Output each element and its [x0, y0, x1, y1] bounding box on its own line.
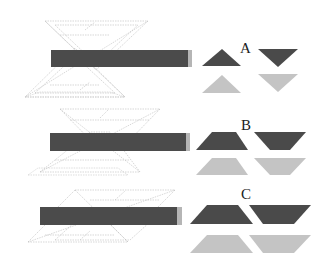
parallelogram-light-right [249, 235, 311, 253]
parallelogram-dark-left [190, 205, 253, 224]
panel-c-shapes [0, 0, 323, 264]
panel-c: C [0, 0, 323, 264]
parallelogram-light-left [190, 235, 253, 253]
panel-label-c: C [241, 186, 251, 203]
parallelogram-dark-right [249, 205, 311, 224]
